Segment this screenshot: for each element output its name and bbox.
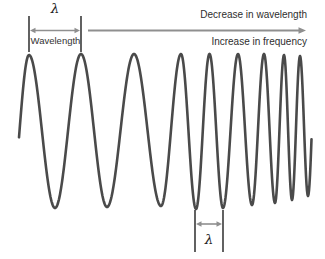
increase-frequency-label: Increase in frequency — [211, 36, 307, 47]
wave-curve — [19, 54, 312, 209]
wave-diagram-canvas: λ Wavelength Decrease in wavelength Incr… — [0, 0, 325, 259]
wavelength-span-top-arrowhead-left-icon — [30, 28, 36, 33]
wavelength-span-bottom-arrowhead-right-icon — [217, 221, 223, 226]
wavelength-span-top-arrowhead-right-icon — [75, 28, 81, 33]
wavelength-label: Wavelength — [30, 36, 81, 46]
decrease-wavelength-label: Decrease in wavelength — [200, 9, 307, 20]
wavelength-symbol-bottom: λ — [201, 232, 217, 247]
wavelength-span-bottom-arrowhead-left-icon — [196, 221, 202, 226]
wavelength-symbol-top: λ — [47, 1, 63, 16]
direction-arrowhead-icon — [299, 27, 307, 33]
